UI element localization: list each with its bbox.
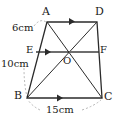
vertex-label-a: A xyxy=(42,6,50,17)
leader-15cm-left xyxy=(28,100,40,110)
dimension-label-bc: 15cm xyxy=(46,105,74,115)
leader-6cm xyxy=(34,21,46,26)
point-label-f: F xyxy=(100,45,107,55)
vertex-label-b: B xyxy=(14,90,22,101)
arrow-marker-ad xyxy=(69,18,75,25)
vertex-label-d: D xyxy=(95,6,104,17)
arrow-marker-ef xyxy=(45,49,51,56)
dimension-label-ae: 6cm xyxy=(12,23,33,33)
arrow-marker-bc xyxy=(57,95,63,102)
geometry-figure: A D B C E F O 6cm 10cm 15cm xyxy=(0,0,118,122)
point-label-e: E xyxy=(26,45,33,55)
intersection-point-o xyxy=(68,51,70,53)
vertex-label-c: C xyxy=(104,91,112,102)
point-label-o: O xyxy=(63,56,71,66)
leader-10cm xyxy=(24,68,27,97)
leader-15cm-right xyxy=(82,100,101,110)
diagonal-ac xyxy=(47,22,102,98)
dimension-label-eb: 10cm xyxy=(1,59,29,69)
